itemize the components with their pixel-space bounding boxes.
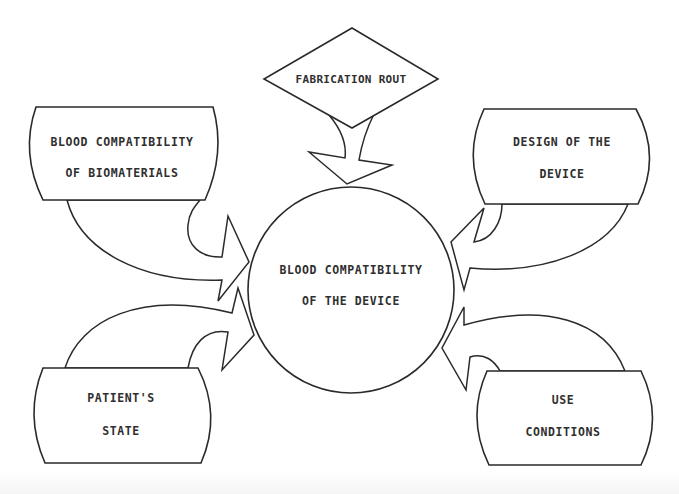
use-conditions-label-line1: USE (552, 393, 575, 407)
patient-state-label-line1: PATIENT'S (87, 391, 155, 405)
patient-state-label-line2: STATE (102, 424, 140, 438)
use-conditions-label-line2: CONDITIONS (525, 425, 600, 439)
patient-state-node: PATIENT'S STATE (34, 368, 211, 463)
fabrication-route-label: FABRICATION ROUT (296, 73, 407, 86)
design-node: DESIGN OF THE DEVICE (473, 109, 649, 204)
biomaterials-node: BLOOD COMPATIBILITY OF BIOMATERIALS (29, 107, 218, 200)
arrow-design-to-center (451, 204, 628, 290)
center-label-line2: OF THE DEVICE (302, 294, 400, 308)
biomaterials-label-line1: BLOOD COMPATIBILITY (51, 135, 194, 149)
page-bottom-edge (0, 470, 679, 494)
center-node: BLOOD COMPATIBILITY OF THE DEVICE (248, 187, 454, 393)
arrow-patient-to-center (65, 288, 254, 370)
design-label-line1: DESIGN OF THE (513, 135, 611, 149)
fabrication-route-node: FABRICATION ROUT (264, 28, 438, 128)
biomaterials-label-line2: OF BIOMATERIALS (66, 166, 179, 180)
arrow-biomaterials-to-center (67, 200, 249, 301)
use-conditions-node: USE CONDITIONS (477, 371, 653, 465)
center-label-line1: BLOOD COMPATIBILITY (280, 263, 423, 277)
blood-compatibility-diagram: BLOOD COMPATIBILITY OF THE DEVICE FABRIC… (0, 0, 679, 494)
design-label-line2: DEVICE (539, 167, 584, 181)
